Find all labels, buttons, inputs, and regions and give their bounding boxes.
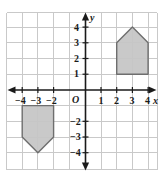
y-axis xyxy=(82,13,89,171)
y-tick-label--2: −2 xyxy=(70,117,81,127)
upper-pentagon-shape xyxy=(117,27,148,74)
x-tick-label-1: 1 xyxy=(99,96,104,106)
coordinate-plane-svg xyxy=(0,0,164,178)
y-tick-label--4: −4 xyxy=(70,148,81,158)
y-axis-name-label: y xyxy=(90,13,94,23)
x-tick-label-3: 3 xyxy=(130,96,135,106)
x-tick-label--2: −2 xyxy=(46,96,57,106)
origin-label: O xyxy=(72,95,79,105)
x-axis xyxy=(8,86,157,93)
y-tick-label-3: 3 xyxy=(74,38,79,48)
y-tick-label--3: −3 xyxy=(70,132,81,142)
x-tick-label--3: −3 xyxy=(31,96,42,106)
x-tick-label-4: 4 xyxy=(145,96,150,106)
coordinate-grid-figure: −4 −3 −2 1 2 3 4 4 3 2 1 −2 −3 −4 O x y xyxy=(0,0,164,178)
x-tick-label--4: −4 xyxy=(15,96,26,106)
y-tick-label-2: 2 xyxy=(74,54,79,64)
lower-pentagon-shape xyxy=(22,106,53,153)
y-tick-label-4: 4 xyxy=(74,23,79,33)
x-tick-label-2: 2 xyxy=(114,96,119,106)
y-tick-label-1: 1 xyxy=(74,69,79,79)
x-axis-name-label: x xyxy=(153,96,158,106)
